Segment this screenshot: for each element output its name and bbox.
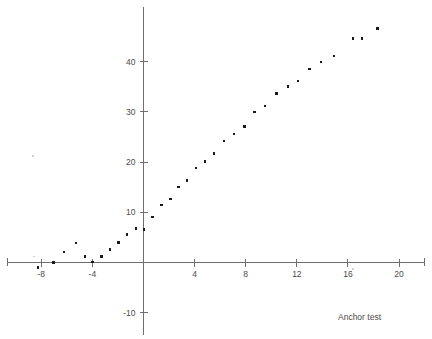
scan-speck: [352, 268, 354, 270]
data-point: [195, 167, 197, 169]
x-tick-label: -4: [89, 269, 97, 279]
axes-group: [7, 7, 425, 335]
y-tick-label: -10: [123, 308, 136, 318]
scan-speck: [32, 155, 34, 157]
data-point: [333, 55, 335, 57]
caption-anchor-test: Anchor test: [338, 312, 382, 322]
scatter-plot-figure: -8-448121620 -1010203040 Anchor test: [0, 0, 432, 339]
data-point: [233, 133, 235, 135]
data-point: [169, 198, 171, 200]
scan-speck: [33, 256, 35, 257]
data-point: [243, 125, 245, 127]
data-point: [63, 251, 65, 253]
data-point: [100, 255, 102, 257]
data-point: [52, 261, 54, 263]
x-tick-label: -8: [37, 269, 45, 279]
data-point: [160, 204, 162, 206]
data-point: [204, 160, 206, 162]
data-point: [151, 216, 153, 218]
y-tick-label: 30: [126, 107, 136, 117]
data-point: [297, 80, 299, 82]
data-point: [126, 233, 128, 235]
data-point: [186, 179, 188, 181]
data-point: [213, 152, 215, 154]
data-point: [320, 61, 322, 63]
data-point: [91, 261, 93, 263]
data-point: [275, 92, 277, 94]
x-tick-label: 12: [292, 269, 302, 279]
data-point: [287, 85, 289, 87]
x-tick-label: 4: [192, 269, 197, 279]
x-tick-label: 8: [243, 269, 248, 279]
data-point: [264, 105, 266, 107]
y-tick-label: 20: [126, 157, 136, 167]
scan-artifacts: [32, 155, 354, 270]
data-point: [37, 266, 39, 268]
data-point: [308, 68, 310, 70]
data-point: [143, 228, 145, 230]
data-point: [223, 140, 225, 142]
data-point: [352, 37, 354, 39]
plot-canvas: -8-448121620 -1010203040 Anchor test: [0, 0, 432, 339]
data-point: [361, 37, 363, 39]
data-point: [109, 248, 111, 250]
data-point: [376, 27, 378, 29]
data-point: [135, 227, 137, 229]
data-point: [117, 241, 119, 243]
data-point: [84, 255, 86, 257]
data-point: [253, 111, 255, 113]
y-tick-label: 10: [126, 207, 136, 217]
x-tick-label: 16: [343, 269, 353, 279]
data-points-group: [37, 27, 379, 268]
data-point: [177, 186, 179, 188]
y-tick-label: 40: [126, 57, 136, 67]
x-tick-label: 20: [394, 269, 404, 279]
data-point: [75, 242, 77, 244]
